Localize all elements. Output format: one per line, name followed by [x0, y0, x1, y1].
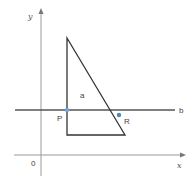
line-b-label: b: [179, 106, 184, 115]
x-axis-label: x: [177, 161, 182, 170]
point-p: [65, 108, 69, 112]
y-axis-arrow-icon: [39, 8, 44, 14]
triangle-a-label: a: [80, 91, 85, 100]
point-p-label: P: [57, 114, 62, 123]
point-r: [117, 113, 121, 117]
triangle-a: [67, 38, 125, 135]
y-axis-label: y: [27, 12, 33, 21]
x-axis: [14, 153, 186, 158]
x-axis-arrow-icon: [180, 153, 186, 158]
coordinate-diagram: y x 0 b a P R: [0, 0, 195, 183]
point-r-label: R: [124, 117, 130, 126]
y-axis: [39, 8, 44, 176]
origin-label: 0: [31, 159, 36, 168]
